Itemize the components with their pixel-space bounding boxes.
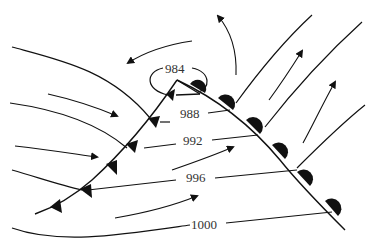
cold-front-triangle	[148, 116, 160, 128]
isobar-line	[12, 170, 82, 190]
warm-front-semicircle	[218, 94, 235, 110]
warm-front	[177, 80, 345, 230]
wind-arrow	[269, 51, 302, 100]
isobar-line	[297, 105, 365, 168]
wind-arrow	[115, 196, 197, 218]
warm-front-line	[177, 80, 345, 230]
isobar-label-996: 996	[186, 170, 206, 185]
wind-arrow	[218, 16, 236, 75]
warm-front-semicircle	[246, 117, 263, 134]
isobar-label-984: 984	[165, 61, 185, 76]
cold-front-triangle	[166, 89, 175, 101]
isobar-line	[12, 225, 190, 237]
cold-front-triangle	[80, 184, 92, 198]
isobar-line	[10, 103, 127, 148]
isobar-992-left	[144, 144, 176, 148]
cold-front-triangle	[126, 140, 138, 153]
cold-front-triangle	[50, 199, 62, 213]
isobar-line	[265, 22, 362, 127]
cold-front	[35, 80, 200, 214]
isobar-996-right	[215, 170, 297, 178]
isobar-label-1000: 1000	[191, 217, 217, 232]
cold-front-triangle	[106, 160, 117, 175]
wind-arrow	[172, 147, 233, 170]
wind-arrow	[303, 82, 335, 143]
isobar-988-right	[208, 110, 230, 113]
isobar-label-988: 988	[180, 106, 200, 121]
isobar-1000-right	[226, 212, 332, 223]
wind-arrows	[15, 16, 335, 218]
wind-arrow	[15, 146, 97, 157]
isobar-996-left	[88, 180, 176, 190]
isobar-label-992: 992	[183, 133, 203, 148]
wind-arrow	[128, 41, 192, 63]
warm-front-semicircle	[325, 199, 341, 216]
cyclone-diagram: 984 988 992 996 1000	[0, 0, 375, 245]
isobar-992-right	[212, 135, 258, 140]
front-apex-line	[176, 94, 200, 95]
isobar-line	[236, 15, 312, 103]
warm-front-semicircle	[272, 142, 288, 159]
